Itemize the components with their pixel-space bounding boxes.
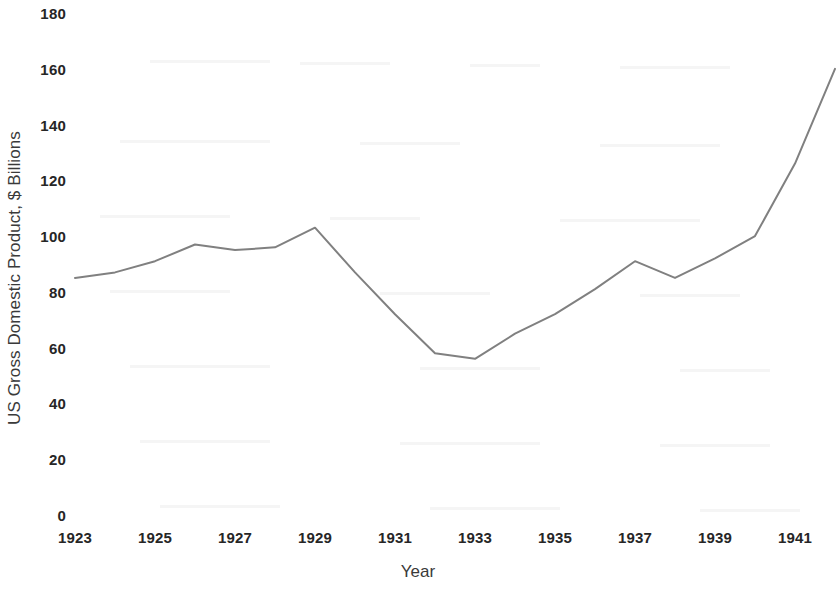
x-axis-tick-label: 1935 bbox=[538, 529, 572, 546]
x-axis-tick-label: 1931 bbox=[378, 529, 412, 546]
x-axis-tick-label: 1925 bbox=[138, 529, 172, 546]
gdp-line-series bbox=[75, 69, 835, 359]
x-axis-tick-label: 1937 bbox=[618, 529, 652, 546]
x-axis-tick-label: 1939 bbox=[698, 529, 732, 546]
x-axis-tick-label: 1929 bbox=[298, 529, 332, 546]
x-axis-tick-label: 1941 bbox=[778, 529, 812, 546]
x-axis-tick-label: 1927 bbox=[218, 529, 252, 546]
plot-area bbox=[0, 0, 836, 589]
x-axis-tick-label: 1923 bbox=[58, 529, 92, 546]
line-chart: 020406080100120140160180 US Gross Domest… bbox=[0, 0, 836, 589]
x-axis-tick-label: 1933 bbox=[458, 529, 492, 546]
